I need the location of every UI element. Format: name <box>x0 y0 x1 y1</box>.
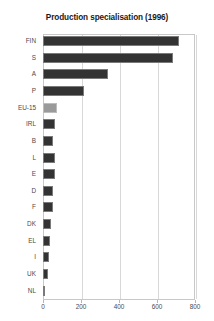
chart-title: Production specialisation (1996) <box>0 13 214 22</box>
x-tick-label: 0 <box>41 303 45 310</box>
category-label-i: I <box>34 252 36 269</box>
bar-l[interactable] <box>43 153 55 163</box>
bar-s[interactable] <box>43 53 173 63</box>
bar-e[interactable] <box>43 169 55 179</box>
bar-uk[interactable] <box>43 269 48 279</box>
bar-f[interactable] <box>43 202 53 212</box>
bar-nl[interactable] <box>43 286 45 296</box>
category-label-eu-15: EU-15 <box>18 103 36 120</box>
bar-fin[interactable] <box>43 36 179 46</box>
category-label-s: S <box>32 53 36 70</box>
value-axis-labels: 0200400600800 <box>0 303 214 317</box>
category-label-p: P <box>32 86 36 103</box>
category-label-f: F <box>32 202 36 219</box>
bar-el[interactable] <box>43 236 50 246</box>
category-label-d: D <box>31 186 36 203</box>
axis-tick <box>81 300 82 303</box>
category-label-fin: FIN <box>26 36 36 53</box>
category-label-uk: UK <box>27 269 36 286</box>
category-label-irl: IRL <box>26 119 36 136</box>
bar-irl[interactable] <box>43 119 55 129</box>
category-label-e: E <box>32 169 36 186</box>
axis-tick <box>195 300 196 303</box>
x-tick-label: 600 <box>152 303 163 310</box>
gridline <box>196 35 197 299</box>
bars-layer <box>43 34 195 300</box>
bar-b[interactable] <box>43 136 53 146</box>
bar-eu-15[interactable] <box>43 103 57 113</box>
axis-tick <box>157 300 158 303</box>
category-label-b: B <box>32 136 36 153</box>
category-axis-labels: FINSAPEU-15IRLBLEDFDKELIUKNL <box>0 34 40 300</box>
bar-a[interactable] <box>43 69 108 79</box>
chart-container: Production specialisation (1996) FINSAPE… <box>0 0 214 321</box>
category-label-nl: NL <box>28 286 36 303</box>
x-tick-label: 400 <box>114 303 125 310</box>
axis-tick <box>43 300 44 303</box>
bar-p[interactable] <box>43 86 84 96</box>
bar-dk[interactable] <box>43 219 51 229</box>
x-tick-label: 200 <box>76 303 87 310</box>
category-label-l: L <box>32 153 36 170</box>
category-label-a: A <box>32 69 36 86</box>
bar-i[interactable] <box>43 252 49 262</box>
category-label-el: EL <box>28 236 36 253</box>
bar-d[interactable] <box>43 186 53 196</box>
axis-tick <box>119 300 120 303</box>
category-label-dk: DK <box>27 219 36 236</box>
x-tick-label: 800 <box>190 303 201 310</box>
